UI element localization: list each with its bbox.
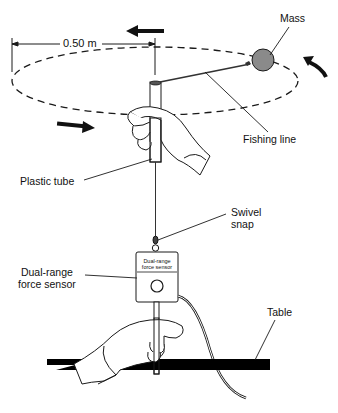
force-sensor-label-line1: Dual-range [18,266,76,278]
mass-label: Mass [280,12,305,24]
upper-hand [128,107,210,175]
arrow-left-icon [126,25,164,37]
plastic-tube-label: Plastic tube [20,175,74,187]
swivel-snap-label-line2: snap [231,218,261,230]
sensor-cable [178,296,246,398]
arrow-curved-icon [303,56,326,77]
sensor-face-text: Dual-range force sensor [137,258,177,270]
swivel-snap [152,236,158,251]
table-label: Table [267,306,292,318]
swivel-snap-label: Swivel snap [231,206,261,230]
fishing-line-label: Fishing line [243,133,296,145]
diagram-canvas [0,0,338,413]
force-sensor-label: Dual-range force sensor [18,266,76,290]
lower-hand [74,320,183,384]
fishing-line [160,64,250,82]
swivel-snap-label-line1: Swivel [231,206,261,218]
radius-dimension-label: 0.50 m [61,37,99,49]
plastic-tube [150,81,161,162]
sensor-button [151,280,163,292]
mass [252,49,274,71]
sensor-face-line2: force sensor [137,264,177,270]
arrow-right-icon [57,121,95,133]
force-sensor-label-line2: force sensor [18,278,76,290]
